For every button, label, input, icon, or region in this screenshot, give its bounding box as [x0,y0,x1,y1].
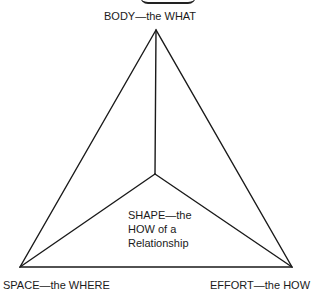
edge-top-to-center [155,30,156,174]
center-line-3: Relationship [128,236,192,250]
vertex-label-effort: EFFORT—the HOW [210,279,310,292]
triangle-diagram [0,0,315,301]
vertex-label-space: SPACE—the WHERE [3,279,110,292]
center-label-shape: SHAPE—the HOW of a Relationship [128,208,192,250]
center-line-1: SHAPE—the [128,208,192,222]
center-line-2: HOW of a [128,222,192,236]
